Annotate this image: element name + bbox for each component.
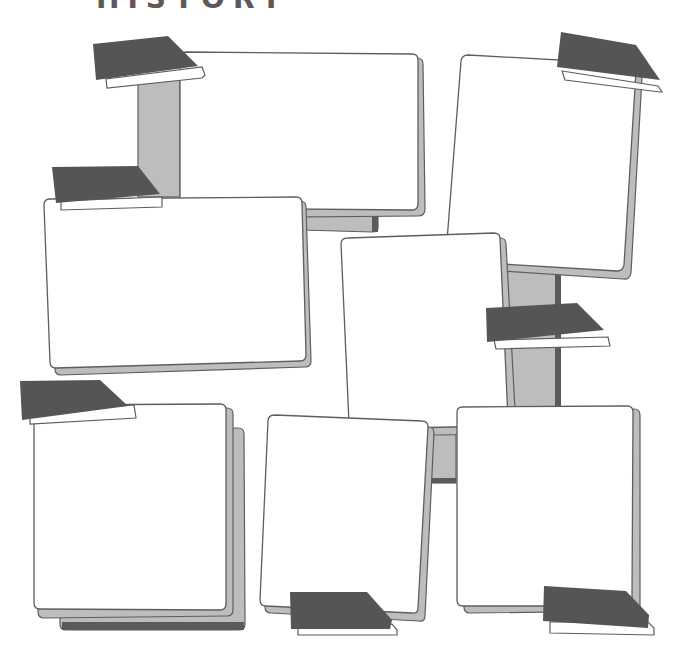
photo-frame-mid-left[interactable] bbox=[44, 197, 311, 375]
scrapbook-canvas: .fr{fill:#ffffff;stroke:#5e5e5e;stroke-w… bbox=[0, 0, 692, 664]
corner-tab-right bbox=[486, 303, 610, 349]
photo-frame-top-center[interactable] bbox=[180, 52, 425, 218]
photo-frame-bottom-center[interactable] bbox=[260, 415, 434, 621]
photo-frame-bottom-right[interactable] bbox=[457, 406, 640, 613]
photo-frame-bottom-left[interactable] bbox=[34, 404, 245, 630]
corner-tab-bottom-left bbox=[20, 380, 136, 424]
